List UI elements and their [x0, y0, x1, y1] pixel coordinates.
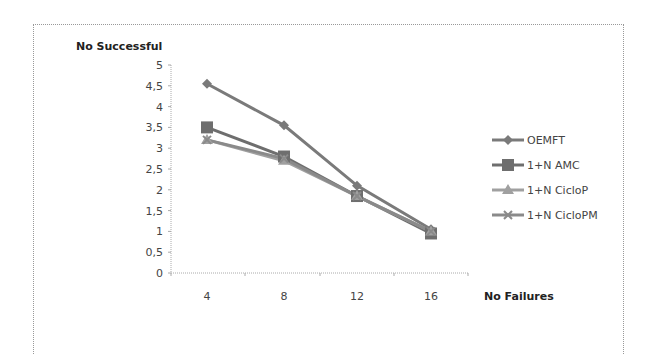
x-tick-label: 4 — [204, 290, 211, 303]
y-tick-label: 0 — [156, 267, 163, 280]
series-line-oemft — [207, 84, 431, 230]
y-tick-label: 4 — [156, 101, 163, 114]
y-tick-label: 1 — [156, 225, 163, 238]
y-tick-label: 5 — [156, 59, 163, 72]
legend-marker — [502, 159, 514, 171]
x-tick-label: 8 — [281, 290, 288, 303]
y-tick-label: 1,5 — [146, 205, 164, 218]
legend-marker — [503, 135, 513, 145]
y-tick-label: 0,5 — [146, 246, 164, 259]
series-line-1-n-amc — [207, 127, 431, 233]
data-point-marker — [201, 121, 213, 133]
y-tick-label: 4,5 — [146, 80, 164, 93]
legend-label: 1+N CicloP — [527, 184, 589, 197]
legend-label: OEMFT — [527, 134, 565, 147]
y-axis-title: No Successful — [76, 40, 162, 53]
x-tick-label: 12 — [350, 290, 364, 303]
x-tick-label: 16 — [424, 290, 438, 303]
y-tick-label: 2 — [156, 184, 163, 197]
y-tick-label: 3,5 — [146, 121, 164, 134]
y-tick-label: 2,5 — [146, 163, 164, 176]
y-tick-label: 3 — [156, 142, 163, 155]
legend-label: 1+N AMC — [527, 159, 580, 172]
x-axis-title: No Failures — [484, 290, 554, 303]
legend-label: 1+N CicloPM — [527, 209, 598, 222]
